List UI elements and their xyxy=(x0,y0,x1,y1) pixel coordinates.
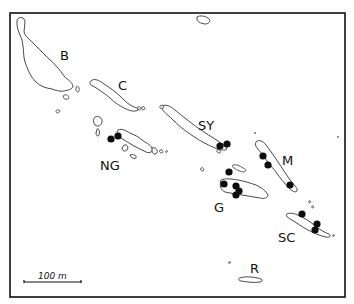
label-ng: NG xyxy=(100,158,120,173)
scale-bar: 100 m xyxy=(24,271,81,283)
scale-bar-label: 100 m xyxy=(38,271,67,281)
label-m: M xyxy=(282,153,293,168)
label-g: G xyxy=(214,200,224,215)
island-bougainville xyxy=(17,18,79,113)
label-c: C xyxy=(118,78,127,93)
label-sy: SY xyxy=(198,118,214,133)
island-ontong-java xyxy=(197,16,210,24)
label-b: B xyxy=(60,48,69,63)
scattered-islets xyxy=(254,132,339,138)
island-new-georgia xyxy=(94,116,168,158)
label-r: R xyxy=(250,261,259,276)
label-sc: SC xyxy=(278,230,295,245)
map-figure: B C SY NG M G SC R 100 m xyxy=(0,0,354,304)
